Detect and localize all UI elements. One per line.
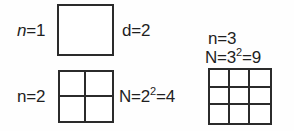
- grid-2x2: [58, 70, 114, 123]
- label-n-equals-1: n=1: [17, 22, 45, 39]
- label-n-equals-3: n=3: [208, 30, 236, 47]
- grid-cell: [86, 72, 112, 97]
- grid-3x3: [208, 68, 272, 125]
- label-d-equals-2: d=2: [122, 22, 150, 39]
- grid-cell: [86, 97, 112, 122]
- grid-cell: [60, 97, 86, 122]
- grid-cell: [210, 88, 230, 106]
- grid-cell: [230, 105, 250, 123]
- label-N2-prefix: N=2: [119, 87, 150, 106]
- label-N3-prefix: N=3: [205, 48, 236, 67]
- grid-cell: [230, 70, 250, 88]
- grid-cell: [59, 6, 112, 54]
- grid-cell: [250, 88, 270, 106]
- label-N2-suffix: =4: [156, 87, 175, 106]
- label-N3-suffix: =9: [242, 48, 261, 67]
- grid-cell: [250, 105, 270, 123]
- label-N-equals-3-squared: N=32=9: [205, 49, 261, 66]
- label-N-equals-2-squared: N=22=4: [119, 88, 175, 105]
- label-n1-suffix: =1: [26, 21, 45, 40]
- grid-cell: [60, 72, 86, 97]
- figure-canvas: n=1 d=2 n=2 N=22=4 n=3 N=32=9: [0, 0, 294, 131]
- grid-cell: [230, 88, 250, 106]
- grid-cell: [210, 70, 230, 88]
- label-n-equals-2: n=2: [17, 88, 45, 105]
- grid-cell: [210, 105, 230, 123]
- square-1x1: [57, 4, 114, 56]
- grid-cell: [250, 70, 270, 88]
- variable-n-italic: n: [17, 21, 26, 40]
